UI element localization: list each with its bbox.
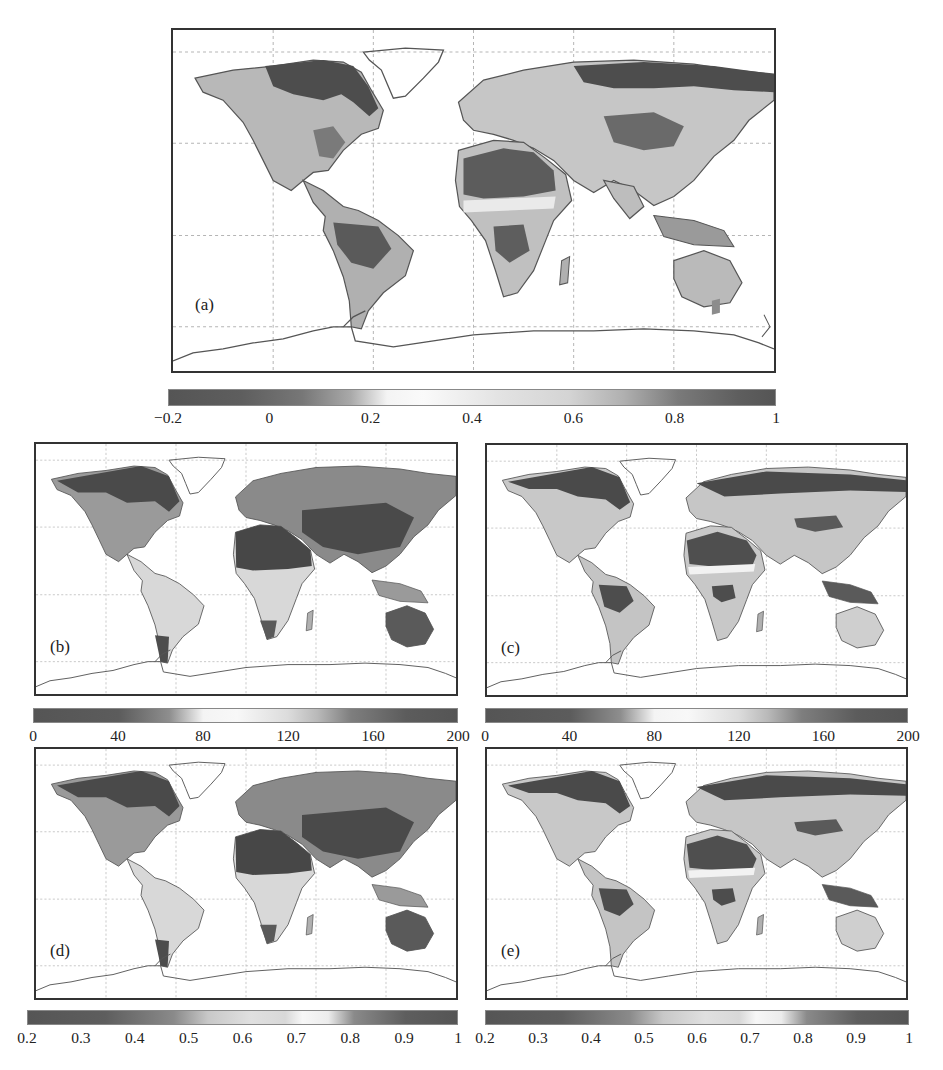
tick: 0.8 xyxy=(793,1029,812,1047)
tick: 1 xyxy=(454,1029,462,1047)
tick: 120 xyxy=(276,727,299,745)
world-map-b xyxy=(36,444,456,694)
tick: 0.6 xyxy=(687,1029,706,1047)
tick: 0.9 xyxy=(846,1029,865,1047)
map-panel-b: (b) xyxy=(34,442,458,696)
world-map-c xyxy=(487,445,906,695)
colorbar-a xyxy=(168,389,776,406)
world-map-d xyxy=(36,749,456,998)
colorbar-c-ticks: 0 40 80 120 160 200 xyxy=(485,727,908,747)
tick: 1 xyxy=(905,1029,913,1047)
colorbar-b-ticks: 0 40 80 120 160 200 xyxy=(33,727,458,747)
colorbar-a-ticks: −0.2 0 0.2 0.4 0.6 0.8 1 xyxy=(168,409,776,429)
world-map-e xyxy=(487,749,906,998)
tick: 0.9 xyxy=(394,1029,413,1047)
panel-label-a: (a) xyxy=(195,295,214,315)
tick: 160 xyxy=(812,727,835,745)
tick: 0.4 xyxy=(462,409,481,427)
colorbar-e xyxy=(485,1010,909,1025)
tick: 0.2 xyxy=(475,1029,494,1047)
tick: 0.3 xyxy=(528,1029,547,1047)
tick: 0.6 xyxy=(564,409,583,427)
panel-label-b: (b) xyxy=(50,637,70,657)
tick: 200 xyxy=(446,727,469,745)
colorbar-e-ticks: 0.2 0.3 0.4 0.5 0.6 0.7 0.8 0.9 1 xyxy=(485,1029,909,1049)
tick: 1 xyxy=(772,409,780,427)
colorbar-d xyxy=(27,1010,458,1025)
tick: 80 xyxy=(646,727,662,745)
tick: 80 xyxy=(195,727,211,745)
tick: 0 xyxy=(265,409,273,427)
tick: 160 xyxy=(361,727,384,745)
tick: 40 xyxy=(562,727,578,745)
tick: 0.8 xyxy=(341,1029,360,1047)
tick: −0.2 xyxy=(154,409,182,427)
tick: 0.5 xyxy=(179,1029,198,1047)
tick: 0.5 xyxy=(634,1029,653,1047)
map-panel-a: (a) xyxy=(171,28,776,373)
world-map-a xyxy=(173,30,774,371)
tick: 0 xyxy=(29,727,37,745)
tick: 0.6 xyxy=(233,1029,252,1047)
tick: 120 xyxy=(727,727,750,745)
tick: 0.3 xyxy=(71,1029,90,1047)
panel-label-d: (d) xyxy=(50,941,70,961)
colorbar-b xyxy=(33,708,458,723)
tick: 0.2 xyxy=(17,1029,36,1047)
panel-label-e: (e) xyxy=(501,941,520,961)
colorbar-d-ticks: 0.2 0.3 0.4 0.5 0.6 0.7 0.8 0.9 1 xyxy=(27,1029,458,1049)
map-panel-d: (d) xyxy=(34,747,458,1000)
colorbar-c xyxy=(485,708,908,723)
tick: 0.2 xyxy=(361,409,380,427)
tick: 0.4 xyxy=(581,1029,600,1047)
tick: 200 xyxy=(896,727,919,745)
map-panel-c: (c) xyxy=(485,443,908,697)
tick: 0 xyxy=(481,727,489,745)
tick: 0.7 xyxy=(740,1029,759,1047)
tick: 0.8 xyxy=(665,409,684,427)
tick: 0.7 xyxy=(287,1029,306,1047)
panel-label-c: (c) xyxy=(501,638,520,658)
tick: 0.4 xyxy=(125,1029,144,1047)
tick: 40 xyxy=(110,727,126,745)
map-panel-e: (e) xyxy=(485,747,908,1000)
